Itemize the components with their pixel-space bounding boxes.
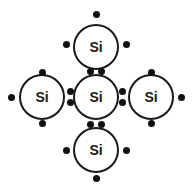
lewis-dot-structure-diagram: SiSiSiSiSi [0,0,193,191]
bonding-electron-pair-dot [98,121,105,128]
lone-electron-dot [93,175,100,182]
atom-symbol-label: Si [89,90,102,104]
bonding-electron-pair-dot [67,88,74,95]
bonding-electron-pair-dot [98,68,105,75]
atom-symbol-label: Si [89,143,102,157]
bonding-electron-pair-dot [67,99,74,106]
lone-electron-dot [123,41,130,48]
lone-electron-dot [39,120,46,127]
atom-bottom: Si [73,127,119,173]
atom-left: Si [19,74,65,120]
atom-center: Si [73,74,119,120]
atom-symbol-label: Si [89,40,102,54]
bonding-electron-pair-dot [119,88,126,95]
lone-electron-dot [63,41,70,48]
atom-symbol-label: Si [144,90,157,104]
bonding-electron-pair-dot [119,99,126,106]
atom-top: Si [73,24,119,70]
lone-electron-dot [148,120,155,127]
lone-electron-dot [178,94,185,101]
atom-right: Si [128,74,174,120]
lone-electron-dot [148,69,155,76]
bonding-electron-pair-dot [87,121,94,128]
lone-electron-dot [123,147,130,154]
lone-electron-dot [63,147,70,154]
bonding-electron-pair-dot [87,68,94,75]
lone-electron-dot [39,69,46,76]
atom-symbol-label: Si [35,90,48,104]
lone-electron-dot [8,94,15,101]
lone-electron-dot [93,11,100,18]
